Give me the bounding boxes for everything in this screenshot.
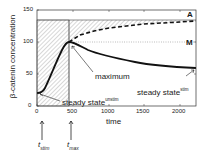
t-stim-subscript: stim	[40, 145, 49, 151]
line-label-M: M	[186, 38, 193, 47]
x-axis-title: time	[106, 117, 121, 126]
hatched-region-rise	[37, 20, 69, 106]
y-tick-label: 150	[23, 6, 33, 12]
x-tick-label: 2000	[172, 108, 185, 114]
annotation-maximum: maximum	[95, 72, 130, 81]
t-max-subscript: max	[69, 145, 78, 151]
t-max-label: tmax	[67, 140, 79, 151]
y-tick-label: 100	[23, 38, 33, 44]
t-stim-label: tstim	[38, 140, 49, 151]
steady-state-stim-superscript: stim	[180, 87, 188, 92]
y-axis-title: β-catenin concentration	[8, 7, 17, 107]
y-tick-label: 0	[28, 102, 31, 108]
steady-state-unstim-superscript: unstim	[105, 97, 118, 102]
annotation-steady-state-stim: steady statestim	[137, 88, 188, 97]
x-tick-label: 0	[35, 108, 38, 114]
x-tick-label: 1500	[136, 108, 149, 114]
line-label-A: A	[187, 10, 193, 19]
y-tick-label: 50	[26, 70, 33, 76]
steady-state-unstim-text: steady state	[62, 98, 105, 107]
time-marker-arrows	[40, 121, 73, 140]
x-tick-label: 500	[67, 108, 77, 114]
hatched-region-area-A	[69, 20, 196, 42]
steady-state-stim-text: steady state	[137, 88, 180, 97]
annotation-steady-state-unstim: steady stateunstim	[62, 98, 118, 107]
x-tick-label: 1000	[101, 108, 114, 114]
